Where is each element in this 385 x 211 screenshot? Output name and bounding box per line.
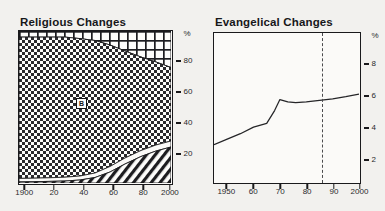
evangelical-x-tick-1980: 80 (303, 187, 312, 197)
religious-x-tick-1900: 1900 (15, 188, 33, 198)
religious-x-tick-1960: 60 (109, 188, 118, 198)
evangelical-y-tick-8-label: 8 (372, 59, 376, 68)
evangelical-x-tick-1970: 70 (276, 187, 285, 197)
panel-evangelical-changes: Evangelical Changes % 8 6 4 2 (190, 0, 385, 211)
religious-x-axis-ticks: 1900 20 40 60 80 2000 (18, 188, 173, 202)
religious-x-tick-1940: 40 (79, 188, 88, 198)
evangelical-x-axis-ticks: 1950 60 70 80 90 2000 (213, 187, 361, 201)
evangelical-y-tick-2-label: 2 (372, 155, 376, 164)
evangelical-y-tick-6-label: 6 (372, 91, 376, 100)
evangelical-plot-area (213, 32, 361, 184)
religious-center-marker: B (76, 98, 87, 109)
evangelical-y-tick-6: 6 (364, 92, 376, 100)
evangelical-x-tick-1990: 90 (330, 187, 339, 197)
evangelical-data-line (214, 94, 359, 145)
evangelical-plot-inner (214, 33, 360, 183)
religious-x-tick-1920: 20 (50, 188, 59, 198)
evangelical-y-unit-text: % (372, 31, 379, 40)
evangelical-x-tick-1950: 1950 (217, 187, 235, 197)
evangelical-chart-title: Evangelical Changes (215, 16, 333, 28)
panel-religious-changes: Religious Changes (0, 0, 195, 211)
evangelical-y-tick-4: 4 (364, 124, 376, 132)
evangelical-x-tick-1960: 60 (249, 187, 258, 197)
evangelical-y-unit-label: % (364, 32, 379, 40)
religious-area-chart (19, 31, 171, 183)
religious-chart-title: Religious Changes (20, 16, 126, 28)
evangelical-reference-dashed-line (322, 33, 323, 183)
evangelical-y-tick-4-label: 4 (372, 123, 376, 132)
evangelical-line-chart (214, 33, 359, 182)
religious-y-unit-label: % (176, 30, 191, 38)
evangelical-x-tick-2000: 2000 (351, 187, 369, 197)
religious-plot-inner (19, 31, 172, 184)
figure-root: Religious Changes (0, 0, 385, 211)
evangelical-y-tick-8: 8 (364, 60, 376, 68)
evangelical-y-tick-2: 2 (364, 156, 376, 164)
religious-plot-area: B (18, 30, 173, 185)
religious-x-tick-2000: 2000 (161, 188, 179, 198)
religious-x-tick-1980: 80 (139, 188, 148, 198)
